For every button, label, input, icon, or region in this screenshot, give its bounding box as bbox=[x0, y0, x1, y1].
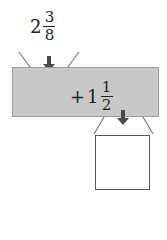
input-funnel-right bbox=[68, 52, 79, 67]
output-funnel-right bbox=[143, 117, 153, 134]
operation-fraction: 1 2 bbox=[101, 80, 113, 113]
operation-whole: 1 bbox=[87, 88, 98, 106]
operation-denominator: 2 bbox=[102, 98, 112, 113]
operation-numerator: 1 bbox=[102, 80, 112, 95]
input-funnel-left bbox=[19, 52, 30, 67]
output-answer-box[interactable] bbox=[95, 135, 150, 190]
output-funnel-left bbox=[94, 117, 104, 134]
operation-label: + 1 1 2 bbox=[70, 80, 113, 113]
down-arrow-icon bbox=[116, 110, 130, 126]
operation-sign: + bbox=[70, 88, 85, 106]
